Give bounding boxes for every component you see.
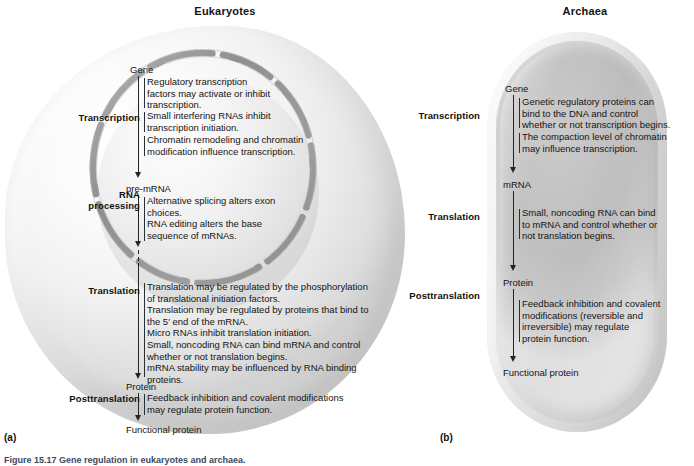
arc-bracket-translation xyxy=(519,209,520,239)
arc-stage-label-posttranslation: Posttranslation xyxy=(370,290,480,301)
arc-bracket-posttranslation xyxy=(519,300,520,342)
subfigure-marker-b: (b) xyxy=(440,432,453,443)
arc-stage-label-translation: Translation xyxy=(380,211,480,222)
arc-bracket-transcription-2 xyxy=(519,133,520,153)
arc-stage-label-transcription: Transcription xyxy=(380,110,480,121)
arc-bracket-transcription-1 xyxy=(519,98,520,128)
arc-arrow-transcription-shaft xyxy=(513,95,514,169)
arc-arrow-transcription-head xyxy=(510,167,516,173)
arc-node-mrna: mRNA xyxy=(503,179,531,190)
arc-text-posttranslation-block-1: Feedback inhibition and covalent modific… xyxy=(522,298,687,344)
arc-text-transcription-block-1: Genetic regulatory proteins can bind to … xyxy=(522,96,687,131)
arc-node-protein: Protein xyxy=(503,277,533,288)
arc-text-translation-block-1: Small, noncoding RNA can bind to mRNA an… xyxy=(522,207,687,242)
arc-arrow-posttranslation-shaft xyxy=(513,289,514,358)
arc-node-functional-protein: Functional protein xyxy=(503,367,579,378)
arc-node-gene: Gene xyxy=(505,83,528,94)
figure-caption: Figure 15.17 Gene regulation in eukaryot… xyxy=(4,455,564,466)
arc-arrow-translation-head xyxy=(510,265,516,271)
arc-text-transcription-block-2: The compaction level of chromatin may in… xyxy=(522,131,687,154)
arc-arrow-posttranslation-head xyxy=(510,356,516,362)
subfigure-marker-a: (a) xyxy=(4,432,16,443)
arc-arrow-translation-shaft xyxy=(513,191,514,267)
